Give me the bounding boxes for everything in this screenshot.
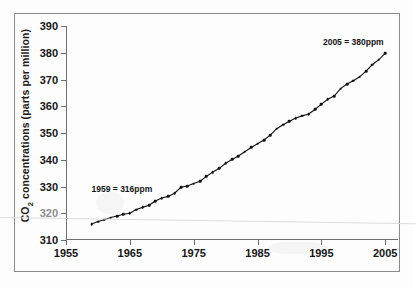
data-point [90, 223, 93, 226]
y-axis-tick-label: 380 [40, 47, 58, 59]
y-axis-title: CO2 concentrations (parts per million) [19, 11, 34, 241]
data-point [339, 87, 342, 90]
data-point [288, 120, 291, 123]
x-axis-tick-label: 2005 [373, 247, 397, 259]
data-point [333, 95, 336, 98]
data-point [358, 76, 361, 79]
data-point [346, 83, 349, 86]
y-axis-tick-label: 310 [40, 234, 58, 246]
y-axis-tick-label: 330 [40, 181, 58, 193]
data-point [173, 192, 176, 195]
data-point [301, 115, 304, 118]
y-axis-tick-label: 350 [40, 127, 58, 139]
data-point [103, 218, 106, 221]
x-axis-tick [321, 240, 322, 245]
data-point [371, 63, 374, 66]
data-point [282, 123, 285, 126]
data-point [295, 117, 298, 120]
y-axis-title-text: CO2 concentrations (parts per million) [19, 29, 31, 223]
x-axis-tick [66, 240, 67, 245]
data-point [186, 185, 189, 188]
x-axis-tick [194, 240, 195, 245]
x-axis-tick [130, 240, 131, 245]
data-point [212, 171, 215, 174]
data-point [192, 182, 195, 185]
start-annotation: 1959 = 316ppm [92, 184, 153, 194]
data-point [129, 212, 132, 215]
data-point [97, 220, 100, 223]
data-line [66, 26, 398, 240]
data-point [218, 167, 221, 170]
data-point [205, 175, 208, 178]
data-point [109, 216, 112, 219]
data-point [122, 213, 125, 216]
data-point [180, 186, 183, 189]
data-point [326, 98, 329, 101]
data-point [167, 195, 170, 198]
data-point [384, 52, 387, 55]
end-annotation: 2005 = 380ppm [323, 37, 384, 47]
data-point [231, 158, 234, 161]
data-point [224, 162, 227, 165]
y-axis-tick-label: 390 [40, 20, 58, 32]
data-point [154, 200, 157, 203]
data-point [256, 142, 259, 145]
data-point [275, 127, 278, 130]
y-axis-tick-label: 320 [40, 207, 58, 219]
x-axis-tick [258, 240, 259, 245]
data-point [314, 108, 317, 111]
data-point [141, 206, 144, 209]
data-point [160, 197, 163, 200]
data-point [352, 80, 355, 83]
y-axis-tick-label: 360 [40, 100, 58, 112]
data-point [365, 70, 368, 73]
y-axis-tick-label: 340 [40, 154, 58, 166]
x-axis-tick-label: 1995 [309, 247, 333, 259]
data-point [320, 103, 323, 106]
data-point [307, 113, 310, 116]
data-point [199, 180, 202, 183]
data-series-co2 [66, 26, 398, 240]
data-point [269, 134, 272, 137]
data-point [237, 155, 240, 158]
data-point [135, 208, 138, 211]
x-axis-tick [385, 240, 386, 245]
data-point [116, 215, 119, 218]
x-axis-tick-label: 1965 [118, 247, 142, 259]
data-point [250, 146, 253, 149]
x-axis-tick-label: 1975 [181, 247, 205, 259]
x-axis-tick-label: 1985 [245, 247, 269, 259]
data-point [243, 150, 246, 153]
y-axis-tick-label: 370 [40, 74, 58, 86]
data-point [263, 139, 266, 142]
plot-area: 310320330340350360370380390 195519651975… [66, 26, 398, 240]
x-axis-tick-label: 1955 [54, 247, 78, 259]
data-point [378, 58, 381, 61]
data-point [148, 204, 151, 207]
